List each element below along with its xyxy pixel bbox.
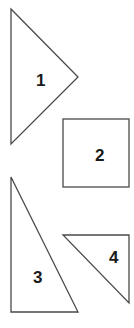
shapes-diagram: 1 2 3 4 <box>0 0 134 328</box>
triangle-3 <box>11 177 78 312</box>
label-4: 4 <box>109 248 119 267</box>
shape-3: 3 <box>11 177 78 312</box>
label-1: 1 <box>36 71 45 90</box>
shape-2: 2 <box>63 119 129 187</box>
label-3: 3 <box>33 268 42 287</box>
shape-4: 4 <box>63 235 129 303</box>
triangle-4 <box>63 235 129 303</box>
label-2: 2 <box>95 146 104 165</box>
